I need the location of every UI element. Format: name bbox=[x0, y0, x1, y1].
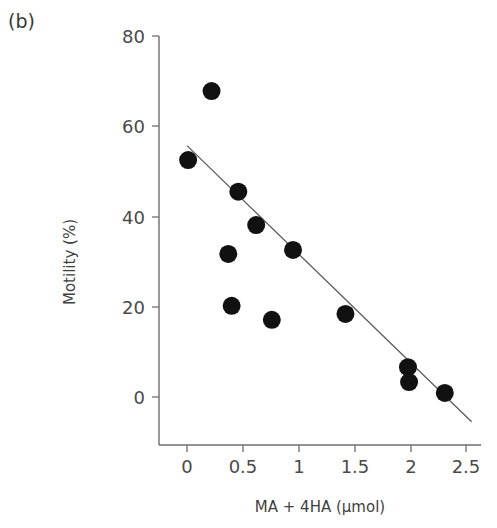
x-tick-label-0-5: 0.5 bbox=[229, 456, 258, 477]
data-point bbox=[179, 151, 197, 169]
x-axis-title: MA + 4HA (µmol) bbox=[255, 498, 385, 516]
x-tick-label-1-5: 1.5 bbox=[341, 456, 370, 477]
y-tick-label-60: 60 bbox=[122, 116, 145, 137]
data-point bbox=[436, 384, 454, 402]
data-points-group bbox=[179, 82, 454, 402]
data-point bbox=[336, 305, 354, 323]
y-tick-label-40: 40 bbox=[122, 207, 145, 228]
regression-line bbox=[187, 146, 472, 422]
x-tick-label-2: 2 bbox=[405, 456, 416, 477]
scatter-plot: 80 60 40 20 0 0 0.5 1 1.5 2 2.5 Motility… bbox=[0, 0, 497, 528]
y-axis-title: Motility (%) bbox=[61, 219, 79, 305]
data-point bbox=[247, 216, 265, 234]
y-tick-label-80: 80 bbox=[122, 26, 145, 47]
data-point bbox=[229, 183, 247, 201]
x-tick-label-0: 0 bbox=[181, 456, 192, 477]
y-tick-label-0: 0 bbox=[134, 387, 145, 408]
data-point bbox=[284, 241, 302, 259]
x-tick-label-2-5: 2.5 bbox=[452, 456, 481, 477]
data-point bbox=[219, 245, 237, 263]
y-tick-label-20: 20 bbox=[122, 297, 145, 318]
data-point bbox=[263, 311, 281, 329]
data-point bbox=[203, 82, 221, 100]
y-axis-ticks bbox=[152, 36, 159, 397]
data-point bbox=[400, 373, 418, 391]
data-point bbox=[223, 297, 241, 315]
x-axis-ticks bbox=[187, 445, 466, 452]
x-tick-label-1: 1 bbox=[293, 456, 304, 477]
figure-panel: (b) 80 60 40 20 0 0 0.5 bbox=[0, 0, 497, 528]
